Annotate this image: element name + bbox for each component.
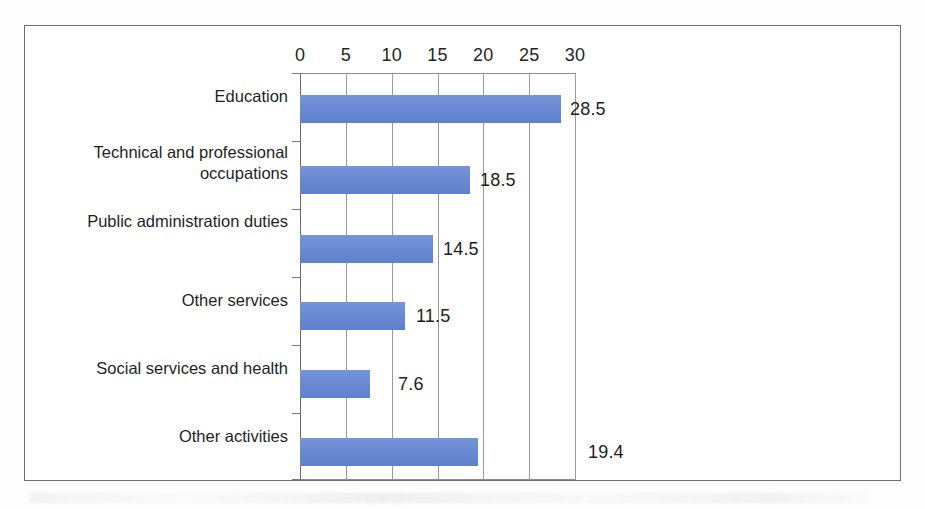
x-tick-label-0: 0 [295,45,305,66]
bar-value-social-services-and-health: 7.6 [398,374,424,395]
category-tick-3 [292,277,300,278]
gridline-15 [438,73,439,480]
category-label-other-activities: Other activities [26,426,288,447]
x-tick-label-5: 25 [519,45,539,66]
x-tick-label-4: 20 [473,45,493,66]
bar-value-education: 28.5 [570,99,606,120]
scanned-page-background: 0 5 10 15 20 25 30 Education Technical a… [0,0,925,509]
bar-public-administration[interactable] [300,235,433,263]
gridline-30 [575,73,576,480]
x-axis-tick-labels: 0 5 10 15 20 25 30 [300,45,575,71]
bar-social-services-and-health[interactable] [300,370,370,398]
category-tick-6 [292,479,300,480]
gridline-20 [483,73,484,480]
category-label-social-services-and-health: Social services and health [26,358,288,379]
category-tick-1 [292,141,300,142]
x-tick-label-3: 15 [427,45,447,66]
x-tick-label-2: 10 [381,45,401,66]
bar-value-technical-and-professional: 18.5 [480,170,516,191]
bar-chart: 0 5 10 15 20 25 30 Education Technical a… [24,25,901,481]
bar-value-public-administration: 14.5 [443,239,479,260]
gridline-0 [300,73,301,480]
gridline-25 [529,73,530,480]
gridline-10 [392,73,393,480]
bar-technical-and-professional[interactable] [300,166,470,194]
y-axis-category-labels: Education Technical and professional occ… [24,73,294,480]
plot-area: 28.5 18.5 14.5 11.5 7.6 19.4 [300,73,575,480]
bar-other-activities[interactable] [300,438,478,466]
category-label-other-services: Other services [26,290,288,311]
category-tick-0 [292,73,300,74]
bar-education[interactable] [300,95,561,123]
category-tick-4 [292,345,300,346]
category-label-technical-and-professional: Technical and professional occupations [26,142,288,184]
bar-other-services[interactable] [300,302,405,330]
x-tick-label-1: 5 [341,45,351,66]
bar-value-other-services: 11.5 [416,306,451,327]
bar-value-other-activities: 19.4 [588,442,624,463]
x-tick-label-6: 30 [565,45,585,66]
category-label-public-administration: Public administration duties [26,211,288,232]
category-label-education: Education [26,86,288,107]
category-tick-5 [292,413,300,414]
scan-artifact [30,493,870,503]
gridline-5 [346,73,347,480]
category-tick-2 [292,209,300,210]
